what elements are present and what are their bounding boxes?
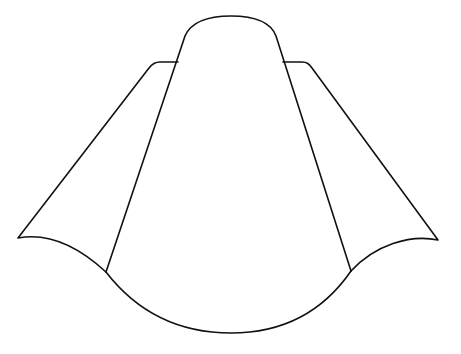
central-dome <box>106 16 351 272</box>
bottom-arc <box>106 271 351 333</box>
right-flap <box>283 62 438 271</box>
shape-drawing <box>0 0 461 354</box>
left-flap <box>18 62 178 272</box>
